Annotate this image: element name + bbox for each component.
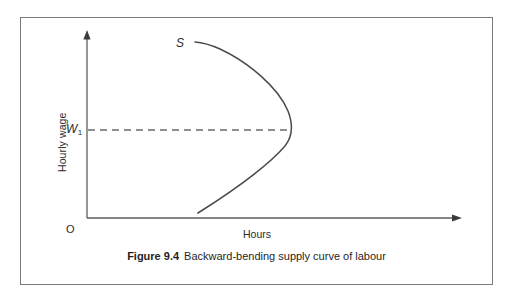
- figure-container: Hourly wage Hours O W1 S Figure 9.4Backw…: [0, 0, 517, 300]
- figure-border: [20, 17, 493, 285]
- x-axis-label: Hours: [243, 228, 271, 240]
- figure-caption-text: Backward-bending supply curve of labour: [184, 250, 386, 262]
- wage-level-label: W1: [66, 122, 82, 137]
- supply-curve-label: S: [176, 36, 184, 50]
- figure-caption: Figure 9.4Backward-bending supply curve …: [20, 250, 493, 262]
- figure-caption-number: Figure 9.4: [127, 250, 179, 262]
- wage-level-label-subscript: 1: [78, 128, 82, 137]
- wage-level-label-main: W: [66, 122, 77, 136]
- origin-label: O: [66, 223, 75, 235]
